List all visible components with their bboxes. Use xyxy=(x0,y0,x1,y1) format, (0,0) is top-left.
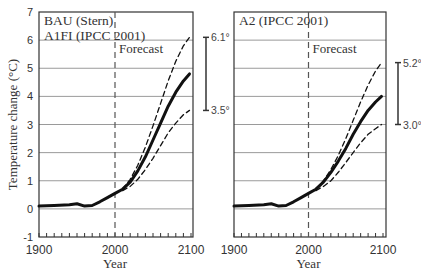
x-tick-label: 1900 xyxy=(26,243,53,257)
range-low-label: 3.5° xyxy=(211,104,230,116)
forecast-label: Forecast xyxy=(313,41,357,56)
panel-title: BAU (Stern) xyxy=(44,13,113,28)
series-upper xyxy=(316,63,382,190)
y-tick-label: 2 xyxy=(27,147,33,159)
y-tick-label: 3 xyxy=(27,119,33,131)
y-tick-label: 5 xyxy=(27,62,33,74)
y-tick-label: 7 xyxy=(27,6,33,18)
range-high-label: 5.2° xyxy=(403,57,421,69)
y-tick-label: 6 xyxy=(27,34,33,46)
forecast-label: Forecast xyxy=(119,41,163,56)
y-tick-label: 0 xyxy=(27,203,33,215)
x-axis-label: Year xyxy=(297,256,322,271)
panel-title: A2 (IPCC 2001) xyxy=(239,13,328,28)
temperature-forecast-figure: BAU (Stern)A1FI (IPCC 2001)Forecast6.1°3… xyxy=(0,0,421,274)
y-tick-label: 4 xyxy=(27,90,33,102)
series-upper xyxy=(123,37,190,189)
y-axis-label: Temperature change (°C) xyxy=(5,59,20,190)
series-central xyxy=(39,74,190,206)
y-tick-label: -1 xyxy=(23,231,33,243)
range-low-label: 3.0° xyxy=(403,119,421,131)
range-high-label: 6.1° xyxy=(211,31,230,43)
x-tick-label: 2100 xyxy=(178,243,205,257)
x-tick-label: 2000 xyxy=(295,243,322,257)
chart-panel-left: BAU (Stern)A1FI (IPCC 2001)Forecast6.1°3… xyxy=(5,6,230,271)
x-tick-label: 1900 xyxy=(221,243,248,257)
chart-panel-right: A2 (IPCC 2001)Forecast5.2°3.0°1900200021… xyxy=(221,12,421,271)
x-tick-label: 2000 xyxy=(102,243,129,257)
series-central xyxy=(234,96,382,206)
x-axis-label: Year xyxy=(103,256,128,271)
x-tick-label: 2100 xyxy=(370,243,397,257)
y-tick-label: 1 xyxy=(27,175,33,187)
